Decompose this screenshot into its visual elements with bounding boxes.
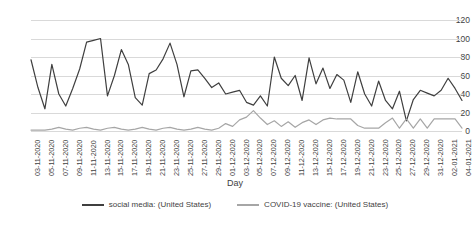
x-axis-tick-label: 23-12-2020 [382,139,389,176]
x-axis-tick-label: 07-12-2020 [270,139,277,176]
x-axis-tick-label: 15-11-2020 [117,140,124,176]
x-axis-tick-label: 31-12-2020 [437,139,444,176]
x-axis-tick-label: 15-12-2020 [326,139,333,176]
x-axis-tick-label: 09-12-2020 [284,139,291,176]
x-axis-tick-label: 05-11-2020 [48,140,55,176]
legend-swatch-icon [82,204,104,206]
x-axis-tick-label: 09-11-2020 [76,140,83,176]
x-axis-tick-label: 03-12-2020 [243,139,250,176]
x-axis-tick-label: 11-12-2020 [298,140,305,176]
chart-legend: social media: (United States)COVID-19 va… [0,200,470,209]
x-axis-tick-label: 03-11-2020 [34,140,41,176]
x-axis-tick-label: 05-12-2020 [256,139,263,176]
x-axis-tick-label: 13-11-2020 [104,140,111,176]
x-axis-ticks: 03-11-202005-11-202007-11-202009-11-2020… [31,134,462,178]
x-axis-tick-label: 04-01-2021 [465,139,472,176]
x-axis-tick-label: 11-11-2020 [90,140,97,176]
series-line [31,39,462,121]
x-axis-tick-label: 29-11-2020 [215,140,222,176]
series-lines [31,20,462,131]
legend-label: social media: (United States) [109,200,211,209]
x-axis-tick-label: 01-12-2020 [229,139,236,176]
x-axis-tick-label: 25-11-2020 [187,140,194,176]
x-axis-tick-label: 27-11-2020 [201,140,208,176]
x-axis-tick-label: 25-12-2020 [395,139,402,176]
x-axis-tick-label: 23-11-2020 [173,140,180,176]
plot-area [31,20,462,131]
legend-swatch-icon [237,204,259,206]
x-axis-tick-label: 02-01-2021 [451,139,458,176]
x-axis-tick-label: 27-12-2020 [409,139,416,176]
series-line [31,111,462,130]
x-axis-tick-label: 13-12-2020 [312,139,319,176]
x-axis-tick-label: 19-12-2020 [354,139,361,176]
x-axis-tick-label: 07-11-2020 [62,140,69,176]
x-axis-tick-label: 29-12-2020 [423,139,430,176]
x-axis-tick-label: 21-11-2020 [159,140,166,176]
x-axis-title: Day [0,178,470,188]
x-axis-tick-label: 17-11-2020 [131,140,138,176]
legend-item[interactable]: COVID-19 vaccine: (United States) [237,200,388,209]
gridline [31,131,462,132]
x-axis-tick-label: 19-11-2020 [145,140,152,176]
x-axis-tick-label: 17-12-2020 [340,139,347,176]
legend-item[interactable]: social media: (United States) [82,200,211,209]
x-axis-tick-label: 21-12-2020 [368,139,375,176]
legend-label: COVID-19 vaccine: (United States) [264,200,388,209]
